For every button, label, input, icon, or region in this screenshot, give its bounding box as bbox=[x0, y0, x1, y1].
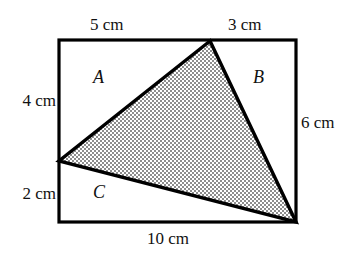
region-label-c: C bbox=[93, 183, 105, 201]
dimension-label-top-left: 5 cm bbox=[90, 16, 124, 33]
dimension-label-top-right: 3 cm bbox=[228, 16, 262, 33]
region-label-b: B bbox=[253, 68, 264, 86]
figure-canvas bbox=[0, 0, 359, 266]
geometry-figure: 5 cm 3 cm 4 cm 2 cm 6 cm 10 cm A B C bbox=[0, 0, 359, 266]
region-label-a: A bbox=[93, 68, 104, 86]
dimension-label-left-lower: 2 cm bbox=[22, 185, 56, 202]
dimension-label-bottom: 10 cm bbox=[147, 230, 189, 247]
dimension-label-right: 6 cm bbox=[301, 114, 335, 131]
dimension-label-left-upper: 4 cm bbox=[22, 92, 56, 109]
